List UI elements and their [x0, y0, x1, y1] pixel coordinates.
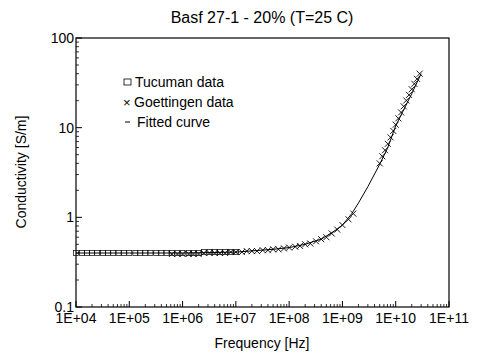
x-tick-label: 1E+10 [375, 310, 416, 326]
x-tick-label: 1E+06 [162, 310, 203, 326]
goettingen-data-point [222, 250, 228, 256]
y-tick-label: 10 [58, 120, 74, 136]
y-tick-label: 0.1 [55, 299, 75, 315]
chart: Basf 27-1 - 20% (T=25 C) 1E+041E+051E+06… [0, 0, 489, 361]
legend-item-tucuman: Tucuman data [124, 74, 224, 90]
tucuman-data-point [201, 250, 206, 255]
y-tick-label: 1 [66, 209, 74, 225]
legend-item-fitted: Fitted curve [125, 114, 210, 130]
legend-item-goettingen: × Goettingen data [123, 94, 234, 110]
goettingen-data-point [174, 251, 180, 257]
legend-label: Goettingen data [134, 94, 234, 110]
plot-area: 1E+041E+051E+061E+071E+081E+091E+101E+11… [51, 30, 469, 326]
plot-frame [76, 38, 449, 307]
chart-title: Basf 27-1 - 20% (T=25 C) [171, 9, 354, 26]
y-tick-label: 100 [51, 30, 75, 46]
y-axis-label: Conductivity [S/m] [13, 116, 29, 229]
x-tick-label: 1E+05 [109, 310, 150, 326]
x-marker-icon: × [123, 95, 131, 110]
legend: Tucuman data × Goettingen data Fitted cu… [123, 74, 234, 130]
goettingen-data-point [217, 250, 223, 256]
goettingen-data-point [196, 251, 202, 257]
goettingen-data-point [212, 250, 218, 256]
legend-label: Tucuman data [135, 74, 224, 90]
goettingen-data-point [169, 251, 175, 257]
x-axis-label: Frequency [Hz] [215, 335, 310, 351]
goettingen-data-point [180, 251, 186, 257]
x-tick-label: 1E+08 [269, 310, 310, 326]
x-tick-label: 1E+09 [322, 310, 363, 326]
square-marker-icon [124, 79, 131, 85]
x-tick-label: 1E+11 [429, 310, 469, 326]
x-tick-label: 1E+07 [215, 310, 256, 326]
legend-label: Fitted curve [137, 114, 210, 130]
